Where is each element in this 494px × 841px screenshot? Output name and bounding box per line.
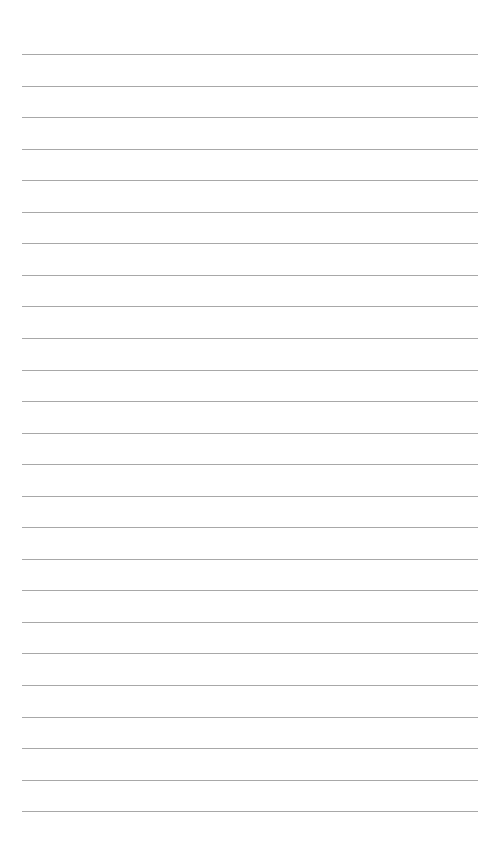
ruled-line	[22, 117, 478, 118]
ruled-line	[22, 717, 478, 718]
ruled-line	[22, 306, 478, 307]
ruled-line	[22, 243, 478, 244]
ruled-line	[22, 212, 478, 213]
ruled-line	[22, 748, 478, 749]
ruled-line	[22, 54, 478, 55]
lined-paper-page	[0, 0, 494, 841]
ruled-line	[22, 149, 478, 150]
ruled-line	[22, 86, 478, 87]
ruled-line	[22, 590, 478, 591]
ruled-line	[22, 180, 478, 181]
ruled-line	[22, 780, 478, 781]
ruled-line	[22, 275, 478, 276]
ruled-line	[22, 370, 478, 371]
ruled-line	[22, 622, 478, 623]
ruled-line	[22, 527, 478, 528]
ruled-line	[22, 433, 478, 434]
ruled-line	[22, 811, 478, 812]
ruled-line	[22, 685, 478, 686]
ruled-line	[22, 464, 478, 465]
ruled-line	[22, 338, 478, 339]
ruled-line	[22, 401, 478, 402]
ruled-line	[22, 496, 478, 497]
ruled-line	[22, 559, 478, 560]
ruled-line	[22, 653, 478, 654]
